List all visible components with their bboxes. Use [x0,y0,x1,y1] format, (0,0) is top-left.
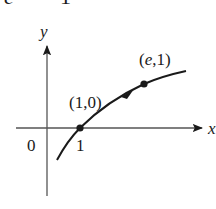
x-tick-label-1: 1 [76,136,85,155]
origin-label: 0 [27,136,36,155]
point-e-1 [140,80,147,87]
point-label-e-1: (e,1) [139,50,171,69]
ln-graph-diagram: e 1 y x 0 1 (1,0) (e,1) [0,0,216,209]
y-axis-label: y [38,22,48,41]
top-fragment-right: 1 [60,0,71,9]
x-axis-label: x [207,119,216,138]
point-1-0 [76,124,83,131]
top-fragment-left: e [4,0,14,9]
point-label-1-0: (1,0) [69,93,102,112]
